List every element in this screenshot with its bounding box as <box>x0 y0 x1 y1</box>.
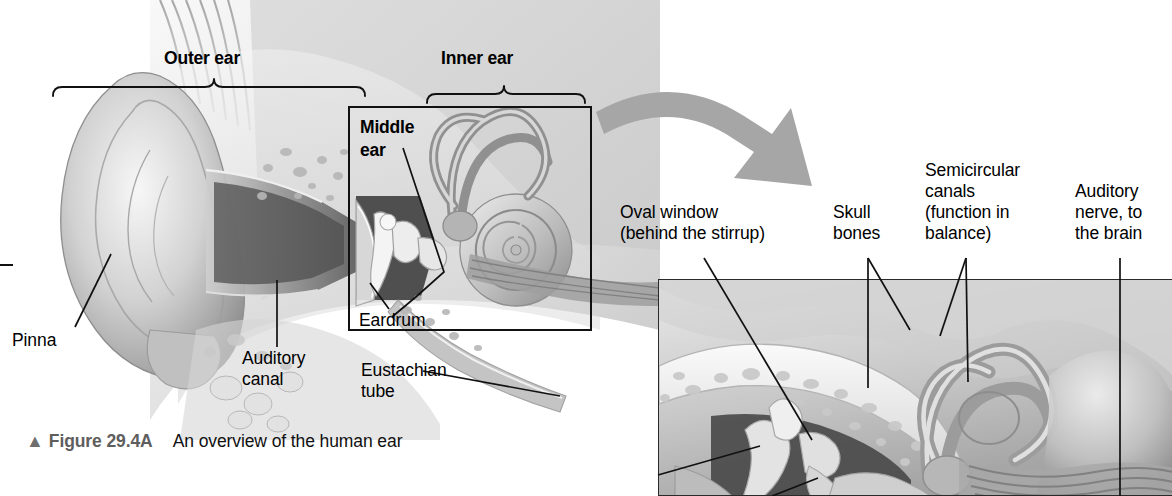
label-auditory-nerve-line3: the brain <box>1075 223 1142 244</box>
label-middle-ear-line2: ear <box>360 140 386 161</box>
triangle-up-icon: ▲ <box>26 432 44 450</box>
label-auditory-canal-line2: canal <box>242 369 283 390</box>
label-semicircular-canals-line1: Semicircular <box>925 160 1020 181</box>
label-middle-ear-line1: Middle <box>360 117 414 138</box>
label-skull-bones-line2: bones <box>833 223 880 244</box>
label-auditory-nerve-line2: nerve, to <box>1075 202 1142 223</box>
label-inner-ear: Inner ear <box>441 48 513 69</box>
label-oval-window-line1: Oval window <box>620 202 718 223</box>
label-semicircular-canals-line2: canals <box>925 181 975 202</box>
label-eardrum: Eardrum <box>359 310 425 331</box>
figure-number: Figure 29.4A <box>49 431 153 452</box>
label-eustachian-tube-line2: tube <box>361 381 395 402</box>
label-eustachian-tube-line1: Eustachian <box>361 360 447 381</box>
label-oval-window-line2: (behind the stirrup) <box>620 223 765 244</box>
figure-page: Outer ear Inner ear Middle ear Pinna Aud… <box>0 0 1172 496</box>
figure-caption-text: An overview of the human ear <box>173 431 403 452</box>
detail-panel-illustration <box>658 279 1172 496</box>
label-auditory-nerve-line1: Auditory <box>1075 181 1138 202</box>
overview-ear-illustration <box>0 0 660 440</box>
label-auditory-canal-line1: Auditory <box>242 348 305 369</box>
label-skull-bones-line1: Skull <box>833 202 870 223</box>
label-semicircular-canals-line3: (function in <box>925 202 1009 223</box>
label-pinna: Pinna <box>12 330 56 351</box>
label-outer-ear: Outer ear <box>164 48 240 69</box>
figure-caption: ▲ Figure 29.4A An overview of the human … <box>26 431 402 452</box>
label-semicircular-canals-line4: balance) <box>925 223 991 244</box>
